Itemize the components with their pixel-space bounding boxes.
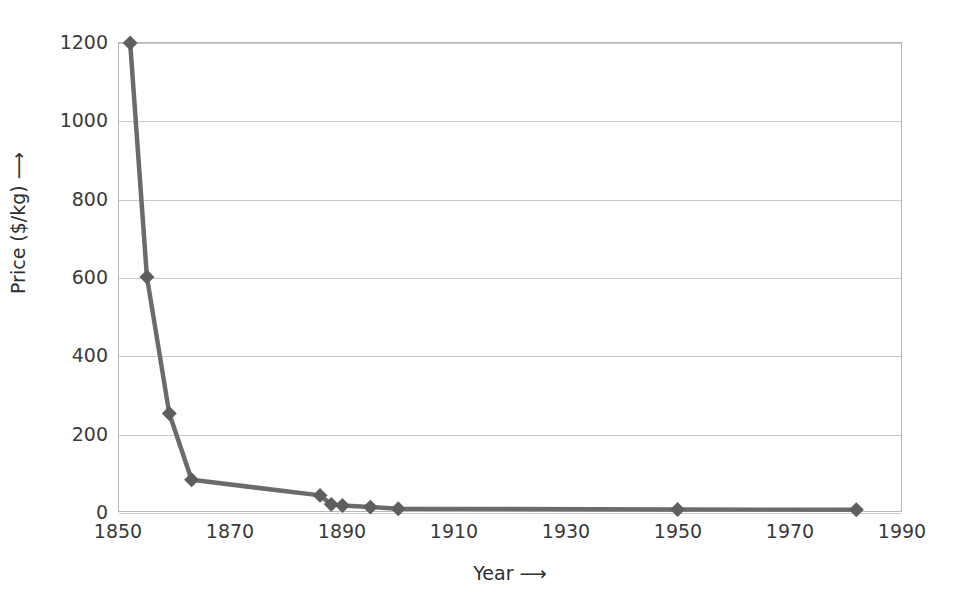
y-tick-label-800: 800 [8,190,108,209]
y-tick-label-400: 400 [8,346,108,365]
x-axis-title: Year ⟶ [118,562,902,584]
data-point-1890 [335,498,350,513]
series-layer [119,43,901,511]
y-tick-label-600: 600 [8,268,108,287]
x-tick-label-1850: 1850 [58,520,178,542]
plot-area [118,42,902,512]
price-of-aluminium-line-chart: Price ($/kg) ⟶ 020040060080010001200 185… [0,0,961,614]
series-line-price [130,43,856,510]
data-point-1950 [670,502,685,517]
x-tick-label-1990: 1990 [842,520,961,542]
y-tick-label-1200: 1200 [8,33,108,52]
data-point-1859 [162,406,177,421]
y-tick-label-200: 200 [8,425,108,444]
data-point-1855 [139,270,154,285]
x-tick-label-1870: 1870 [170,520,290,542]
x-tick-label-1910: 1910 [394,520,514,542]
x-axis-tick-labels: 18501870189019101930195019701990 [118,520,902,550]
x-tick-label-1930: 1930 [506,520,626,542]
x-tick-label-1970: 1970 [730,520,850,542]
x-tick-label-1950: 1950 [618,520,738,542]
y-tick-label-1000: 1000 [8,111,108,130]
data-point-1982 [849,502,864,517]
x-axis-title-text: Year ⟶ [473,562,547,584]
y-axis-tick-labels: 020040060080010001200 [0,42,108,512]
series-markers-price [123,36,864,518]
x-tick-label-1890: 1890 [282,520,402,542]
data-point-1863 [184,472,199,487]
gridline-y-0 [119,513,901,514]
data-point-1852 [123,36,138,51]
